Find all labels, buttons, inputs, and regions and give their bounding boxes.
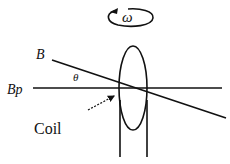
coil-field-diagram: ω B Bp θ Coil — [0, 0, 230, 164]
b-field-label: B — [36, 47, 45, 62]
angle-theta-label: θ — [73, 71, 79, 83]
b-parallel-label: Bp — [7, 82, 23, 97]
b-field-line — [52, 60, 226, 118]
coil-label: Coil — [34, 120, 62, 137]
coil-pointer-arrow-icon — [88, 96, 114, 110]
omega-label: ω — [122, 9, 133, 25]
coil-loop — [119, 46, 147, 157]
